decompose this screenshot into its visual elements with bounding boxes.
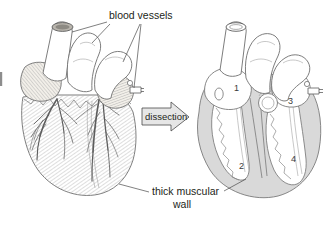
heart-dissection-figure: dissection [0, 0, 336, 226]
dissected-vessel-stub [308, 88, 319, 94]
thick-muscular-wall-label-line2: wall [172, 198, 191, 210]
dissected-vessel-lumen-1-inner [230, 25, 243, 30]
chamber-number-2: 2 [239, 161, 244, 171]
chamber-number-3: 3 [288, 96, 293, 106]
dissection-arrow-label: dissection [145, 111, 187, 122]
dissected-vessel-stub-node [304, 81, 309, 86]
blood-vessels-label: blood vessels [109, 9, 173, 21]
vessel-stub-intact [130, 87, 141, 93]
cropped-edge-mark [0, 72, 2, 86]
valve-ring [259, 94, 278, 113]
chamber-number-4: 4 [291, 154, 296, 164]
thick-muscular-wall-label-line1: thick muscular [152, 185, 220, 197]
vessel-stub-node [127, 80, 132, 85]
vessel-lumen-1-inner [56, 24, 70, 29]
chamber-number-1: 1 [234, 83, 239, 93]
chamber-1-valve-opening [215, 88, 223, 100]
